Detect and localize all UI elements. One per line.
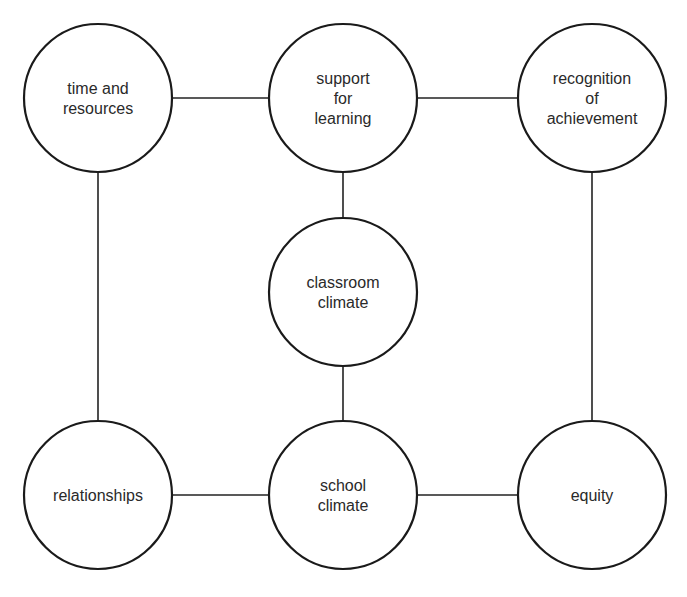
node-classroom-climate: classroomclimate: [269, 218, 417, 366]
node-label: time and: [67, 80, 128, 97]
node-time-and-resources: time andresources: [24, 24, 172, 172]
node-label: resources: [63, 100, 133, 117]
node-relationships: relationships: [24, 421, 172, 569]
node-circle: [269, 218, 417, 366]
node-label: for: [334, 90, 353, 107]
node-label: of: [585, 90, 599, 107]
node-recognition-of-achievement: recognitionofachievement: [518, 24, 666, 172]
node-label: achievement: [547, 110, 638, 127]
node-circle: [269, 421, 417, 569]
node-circle: [24, 24, 172, 172]
node-school-climate: schoolclimate: [269, 421, 417, 569]
node-label: learning: [315, 110, 372, 127]
nodes: time andresourcessupportforlearningrecog…: [24, 24, 666, 569]
node-equity: equity: [518, 421, 666, 569]
node-label: climate: [318, 497, 369, 514]
concept-diagram: time andresourcessupportforlearningrecog…: [0, 0, 687, 597]
node-label: equity: [571, 487, 614, 504]
node-label: classroom: [307, 274, 380, 291]
node-label: recognition: [553, 70, 631, 87]
node-label: climate: [318, 294, 369, 311]
node-label: support: [316, 70, 370, 87]
node-label: school: [320, 477, 366, 494]
node-label: relationships: [53, 487, 143, 504]
node-support-for-learning: supportforlearning: [269, 24, 417, 172]
